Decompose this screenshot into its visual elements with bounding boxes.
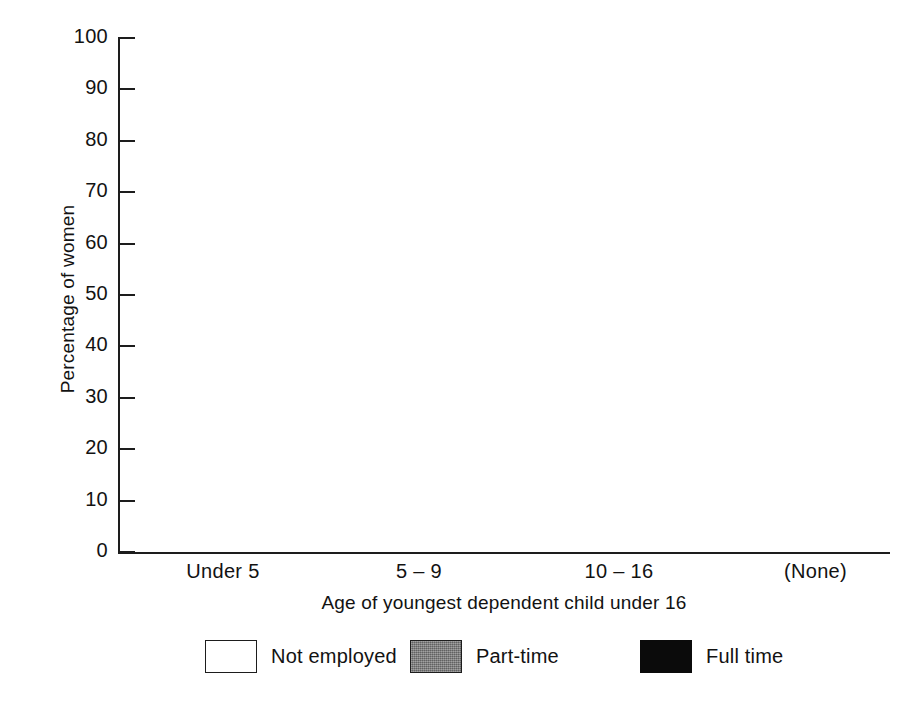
x-axis-line [118, 552, 890, 554]
y-axis-tick-label: 50 [48, 282, 108, 305]
y-axis-tick [118, 88, 135, 90]
y-axis-tick-label: 40 [48, 333, 108, 356]
legend-item[interactable]: Part-time [410, 638, 559, 674]
legend-swatch-icon [205, 640, 257, 673]
x-axis-category-label: (None) [748, 560, 883, 583]
y-axis-tick-label: 10 [48, 488, 108, 511]
legend-label: Part-time [476, 645, 559, 668]
y-axis-tick [118, 191, 135, 193]
y-axis-tick [118, 397, 135, 399]
y-axis-tick-label: 80 [48, 128, 108, 151]
x-axis-title: Age of youngest dependent child under 16 [118, 592, 890, 614]
legend-swatch-icon [410, 640, 462, 673]
y-axis-tick-label: 0 [48, 539, 108, 562]
y-axis-tick [118, 500, 135, 502]
y-axis-tick [118, 140, 135, 142]
y-axis-tick [118, 243, 135, 245]
x-axis-category-label: Under 5 [158, 560, 288, 583]
stacked-bar-chart: Percentage of women 10090807060504030201… [0, 0, 915, 720]
legend-item[interactable]: Full time [640, 638, 783, 674]
y-axis-tick-label: 60 [48, 231, 108, 254]
y-axis-tick-label: 70 [48, 179, 108, 202]
y-axis-tick [118, 37, 135, 39]
y-axis-tick [118, 448, 135, 450]
y-axis-tick-label: 90 [48, 76, 108, 99]
y-axis-tick [118, 345, 135, 347]
legend-item[interactable]: Not employed [205, 638, 397, 674]
legend-label: Full time [706, 645, 783, 668]
y-axis-tick-label: 20 [48, 436, 108, 459]
y-axis-tick [118, 294, 135, 296]
x-axis-category-label: 5 – 9 [353, 560, 485, 583]
y-axis-tick-label: 100 [48, 25, 108, 48]
legend-label: Not employed [271, 645, 397, 668]
legend: Not employedPart-timeFull time [0, 638, 915, 684]
legend-swatch-icon [640, 640, 692, 673]
y-axis-tick-label: 30 [48, 385, 108, 408]
x-axis-category-label: 10 – 16 [553, 560, 685, 583]
